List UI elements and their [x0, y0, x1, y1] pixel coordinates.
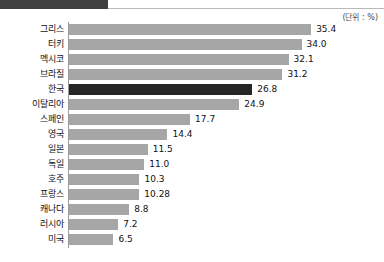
- bar-value-label: 31.2: [287, 67, 307, 82]
- bar-row: 한국26.8: [0, 82, 384, 97]
- bar: [69, 219, 118, 230]
- bar-row-label: 캐나다: [0, 202, 64, 217]
- bar-row-label: 프랑스: [0, 187, 64, 202]
- bar-value-label: 14.4: [172, 127, 192, 142]
- bar-row-label: 브라질: [0, 67, 64, 82]
- bar-row: 프랑스10.28: [0, 187, 384, 202]
- bar-chart-plot: 그리스35.4터키34.0멕시코32.1브라질31.2한국26.8이탈리아24.…: [0, 22, 384, 254]
- bar-row-label: 미국: [0, 232, 64, 247]
- title-bar: [0, 0, 108, 9]
- bar: [69, 129, 167, 140]
- bar-row: 일본11.5: [0, 142, 384, 157]
- bar-row-label: 한국: [0, 82, 64, 97]
- bar: [69, 69, 282, 80]
- unit-label: (단위 : %): [342, 11, 378, 22]
- bar-row: 스페인17.7: [0, 112, 384, 127]
- bar-value-label: 7.2: [123, 217, 137, 232]
- bar: [69, 24, 311, 35]
- bar-row-label: 호주: [0, 172, 64, 187]
- bar-row-label: 그리스: [0, 22, 64, 37]
- bar-row: 터키34.0: [0, 37, 384, 52]
- bar-row-label: 러시아: [0, 217, 64, 232]
- bar-row: 호주10.3: [0, 172, 384, 187]
- bar: [69, 99, 239, 110]
- bar-value-label: 26.8: [257, 82, 277, 97]
- bar: [69, 54, 289, 65]
- bar-row-label: 멕시코: [0, 52, 64, 67]
- bar: [69, 234, 113, 245]
- bar-value-label: 10.3: [144, 172, 164, 187]
- bar-value-label: 34.0: [307, 37, 327, 52]
- bar: [69, 174, 139, 185]
- bar-row: 멕시코32.1: [0, 52, 384, 67]
- bar-row: 독일11.0: [0, 157, 384, 172]
- bar-value-label: 11.5: [153, 142, 173, 157]
- bar-row: 이탈리아24.9: [0, 97, 384, 112]
- bar: [69, 159, 144, 170]
- bar-value-label: 32.1: [294, 52, 314, 67]
- bar-row: 캐나다8.8: [0, 202, 384, 217]
- bar-value-label: 6.5: [118, 232, 132, 247]
- bar: [69, 144, 148, 155]
- bar-value-label: 24.9: [244, 97, 264, 112]
- bar-row: 브라질31.2: [0, 67, 384, 82]
- bar-row: 영국14.4: [0, 127, 384, 142]
- bar-row-label: 독일: [0, 157, 64, 172]
- bar-row-label: 일본: [0, 142, 64, 157]
- bar-value-label: 11.0: [149, 157, 169, 172]
- bar: [69, 39, 302, 50]
- bar: [69, 189, 139, 200]
- bar-row-label: 터키: [0, 37, 64, 52]
- header-divider: [108, 8, 384, 9]
- bar-row-label: 이탈리아: [0, 97, 64, 112]
- bar-row: 러시아7.2: [0, 217, 384, 232]
- bar-row-label: 스페인: [0, 112, 64, 127]
- bar-row: 미국6.5: [0, 232, 384, 247]
- bar-value-label: 8.8: [134, 202, 148, 217]
- bar: [69, 84, 252, 95]
- bar: [69, 114, 190, 125]
- bar-value-label: 35.4: [316, 22, 336, 37]
- bar: [69, 204, 129, 215]
- bar-row: 그리스35.4: [0, 22, 384, 37]
- bar-value-label: 10.28: [144, 187, 170, 202]
- bar-row-label: 영국: [0, 127, 64, 142]
- bar-value-label: 17.7: [195, 112, 215, 127]
- chart-page: (단위 : %) 그리스35.4터키34.0멕시코32.1브라질31.2한국26…: [0, 0, 384, 262]
